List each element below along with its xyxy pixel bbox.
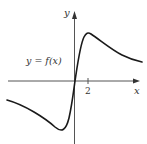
x-axis-label: x — [134, 85, 140, 96]
y-axis-label: y — [63, 7, 70, 18]
function-graph: y x 2 y = f(x) — [0, 0, 147, 144]
x-tick-label-2: 2 — [85, 86, 91, 96]
curve-label: y = f(x) — [25, 55, 62, 66]
y-axis-arrow-icon — [72, 11, 77, 19]
x-axis-arrow-icon — [133, 79, 140, 84]
